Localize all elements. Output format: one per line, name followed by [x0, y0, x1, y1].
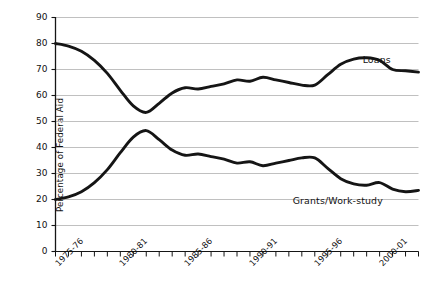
- y-tick-label: 60: [22, 91, 48, 100]
- y-tick-label: 90: [22, 13, 48, 22]
- y-tick-label: 30: [22, 169, 48, 178]
- series-label-loans: Loans: [363, 54, 391, 65]
- y-tick-label: 0: [22, 247, 48, 256]
- series-label-grants-work-study: Grants/Work-study: [293, 195, 383, 206]
- y-tick-label: 70: [22, 65, 48, 74]
- y-tick-label: 80: [22, 39, 48, 48]
- chart-container: Percentage of Federal Aid 01020304050607…: [0, 0, 424, 304]
- series-line-grants-work-study: [56, 131, 419, 200]
- y-tick-label: 50: [22, 117, 48, 126]
- y-tick-label: 40: [22, 143, 48, 152]
- y-tick-label: 20: [22, 195, 48, 204]
- y-tick-label: 10: [22, 221, 48, 230]
